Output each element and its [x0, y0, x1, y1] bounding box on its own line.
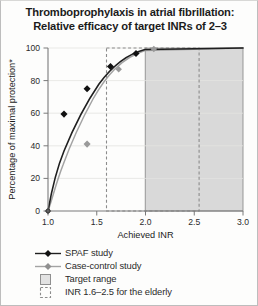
y-axis-title: Percentage of maximal protection*	[7, 59, 17, 200]
x-tick-label: 3.0	[237, 217, 249, 227]
y-tick-label: 20	[30, 173, 40, 183]
legend-key-filled-square	[31, 272, 65, 285]
x-tick-label: 1.0	[42, 217, 54, 227]
legend-key-dashed-square	[31, 285, 65, 298]
legend-key-line-marker-dark	[31, 246, 65, 259]
legend-label-target-range: Target range	[65, 273, 116, 284]
shaded-region-target-range	[145, 48, 243, 211]
y-axis-ticks	[44, 48, 49, 211]
x-tick-label: 1.5	[91, 217, 103, 227]
series-spaf-markers	[45, 50, 140, 214]
legend-key-line-marker-gray	[31, 259, 65, 272]
x-tick-label: 2.0	[140, 217, 152, 227]
legend-label-spaf: SPAF study	[65, 247, 113, 258]
chart-plot: 100 80 60 40 20 0 1.0 1.5 2.0 2.5 3.0 Ac…	[1, 1, 258, 241]
y-tick-label: 80	[30, 76, 40, 86]
x-axis-ticks	[48, 211, 243, 216]
legend-item-spaf: SPAF study	[31, 246, 251, 259]
legend-label-elderly-inr: INR 1.6–2.5 for the elderly	[65, 286, 172, 297]
y-tick-label: 0	[35, 206, 40, 216]
legend-label-case-control: Case-control study	[65, 260, 141, 271]
y-tick-label: 40	[30, 141, 40, 151]
legend-item-elderly-inr: INR 1.6–2.5 for the elderly	[31, 285, 251, 298]
x-axis-title: Achieved INR	[117, 230, 174, 240]
legend-item-case-control: Case-control study	[31, 259, 251, 272]
x-axis-tick-labels: 1.0 1.5 2.0 2.5 3.0	[42, 217, 249, 227]
y-axis-tick-labels: 100 80 60 40 20 0	[26, 43, 41, 216]
y-tick-label: 60	[30, 108, 40, 118]
legend: SPAF study Case-control study Target ran…	[31, 246, 251, 298]
y-tick-label: 100	[26, 43, 41, 53]
legend-item-target-range: Target range	[31, 272, 251, 285]
x-tick-label: 2.5	[188, 217, 200, 227]
figure-container: Thromboprophylaxis in atrial fibrillatio…	[0, 0, 258, 306]
